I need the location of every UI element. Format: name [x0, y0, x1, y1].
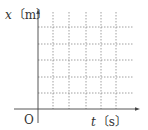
- x-axis: [14, 107, 140, 110]
- x-axis-label: t〔s〕: [91, 115, 127, 129]
- origin-label: O: [24, 113, 34, 127]
- grid-vertical-lines: [53, 12, 116, 109]
- xt-graph: x〔m〕 t〔s〕 O: [0, 0, 148, 130]
- grid-horizontal-lines: [38, 27, 133, 93]
- x-axis-arrow-icon: [135, 107, 140, 110]
- y-axis: [36, 9, 39, 123]
- y-axis-label: x〔m〕: [5, 8, 48, 22]
